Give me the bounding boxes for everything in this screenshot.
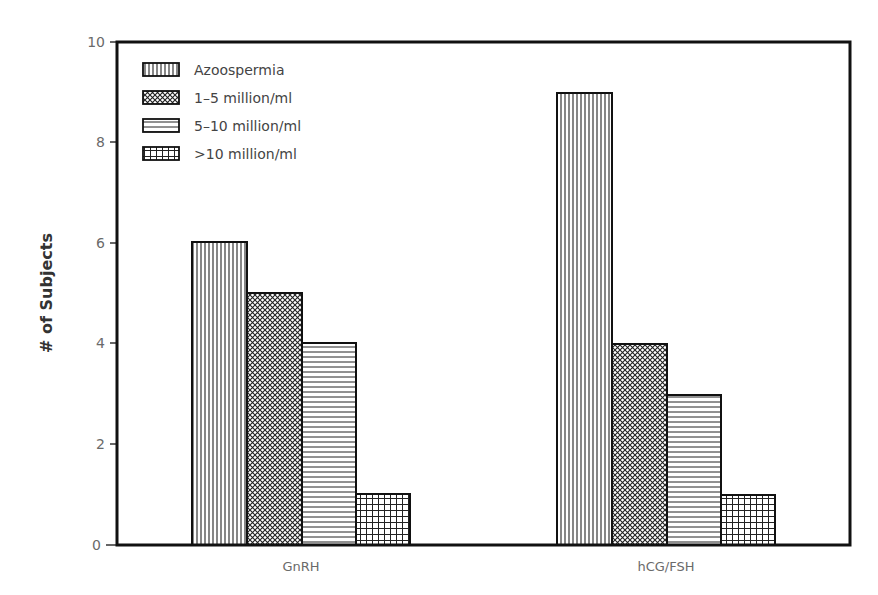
legend-label: >10 million/ml [194,146,297,162]
y-tick-label: 8 [96,134,105,150]
y-axis-label: # of Subjects [37,233,56,353]
x-category-label-hcg-fsh: hCG/FSH [637,559,694,574]
legend-swatch-grid [143,147,179,160]
bar-gnrh-azoospermia [192,242,247,545]
bar-gnrh-5-10 [302,343,356,545]
y-tick-label: 0 [92,537,101,553]
legend-label: 5–10 million/ml [194,118,301,134]
y-tick-label: 10 [87,34,105,50]
y-axis: 10 8 6 4 2 0 [87,34,117,553]
legend-swatch-vertical-lines [143,63,179,76]
y-tick-label: 6 [96,235,105,251]
legend-item-1-5: 1–5 million/ml [143,90,292,106]
legend: Azoospermia 1–5 million/ml 5–10 million/… [143,62,301,162]
legend-swatch-crosshatch [143,91,179,104]
legend-item-gt10: >10 million/ml [143,146,297,162]
bar-gnrh-1-5 [247,293,302,545]
bar-chart: # of Subjects 10 8 6 4 2 0 GnRH hCG/FSH [0,0,878,595]
bar-hcg-azoospermia [557,93,612,545]
x-category-label-gnrh: GnRH [282,559,319,574]
bar-hcg-gt10 [721,495,775,545]
bar-gnrh-gt10 [356,494,410,545]
legend-swatch-horizontal-lines [143,119,179,132]
y-tick-label: 4 [96,335,105,351]
y-tick-label: 2 [96,436,105,452]
legend-item-azoospermia: Azoospermia [143,62,284,78]
legend-label: Azoospermia [194,62,284,78]
bar-hcg-1-5 [612,344,667,545]
legend-item-5-10: 5–10 million/ml [143,118,301,134]
bar-group-hcg-fsh [557,93,775,545]
bar-hcg-5-10 [667,395,721,545]
bar-group-gnrh [192,242,410,545]
legend-label: 1–5 million/ml [194,90,292,106]
